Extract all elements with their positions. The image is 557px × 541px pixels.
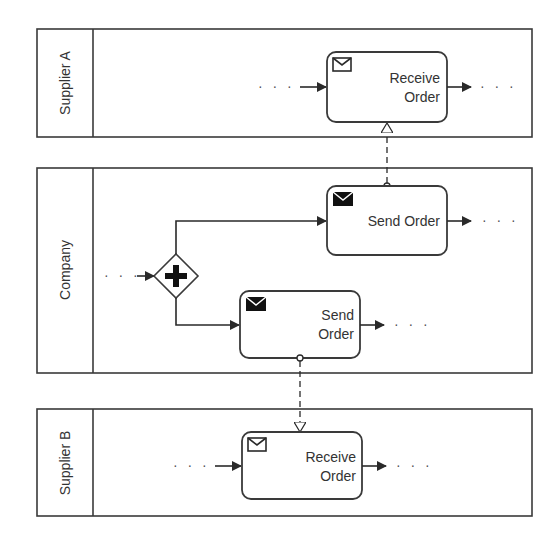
task-label-line1: Send <box>321 307 354 323</box>
ellipsis-in-company: · · · <box>104 267 141 283</box>
task-label-line1: Receive <box>389 70 440 86</box>
bpmn-diagram: Supplier A Company Supplier B · · · Rece… <box>0 0 557 541</box>
envelope-outline-icon <box>333 58 351 71</box>
ellipsis-out-upper: · · · <box>482 212 519 228</box>
task-send-order-lower[interactable]: Send Order <box>240 291 360 358</box>
ellipsis-in-b: · · · <box>173 457 210 473</box>
task-receive-order-b[interactable]: Receive Order <box>242 432 362 499</box>
lane-label-supplier-a: Supplier A <box>57 50 73 114</box>
task-label-line1: Send Order <box>368 213 441 229</box>
lane-label-supplier-b: Supplier B <box>57 431 73 496</box>
envelope-filled-icon <box>333 192 353 206</box>
lane-label-company: Company <box>57 240 73 300</box>
task-label-line1: Receive <box>305 449 356 465</box>
ellipsis-in-a: · · · <box>258 78 295 94</box>
task-label-line2: Order <box>404 89 440 105</box>
task-label-line2: Order <box>318 326 354 342</box>
task-label-line2: Order <box>320 468 356 484</box>
ellipsis-out-lower: · · · <box>394 316 431 332</box>
task-send-order-upper[interactable]: Send Order <box>327 186 447 255</box>
envelope-filled-icon <box>246 297 266 311</box>
task-receive-order-a[interactable]: Receive Order <box>327 52 447 122</box>
envelope-outline-icon <box>248 438 266 451</box>
ellipsis-out-b: · · · <box>396 457 433 473</box>
message-flow-origin <box>297 355 303 361</box>
ellipsis-out-a: · · · <box>480 78 517 94</box>
